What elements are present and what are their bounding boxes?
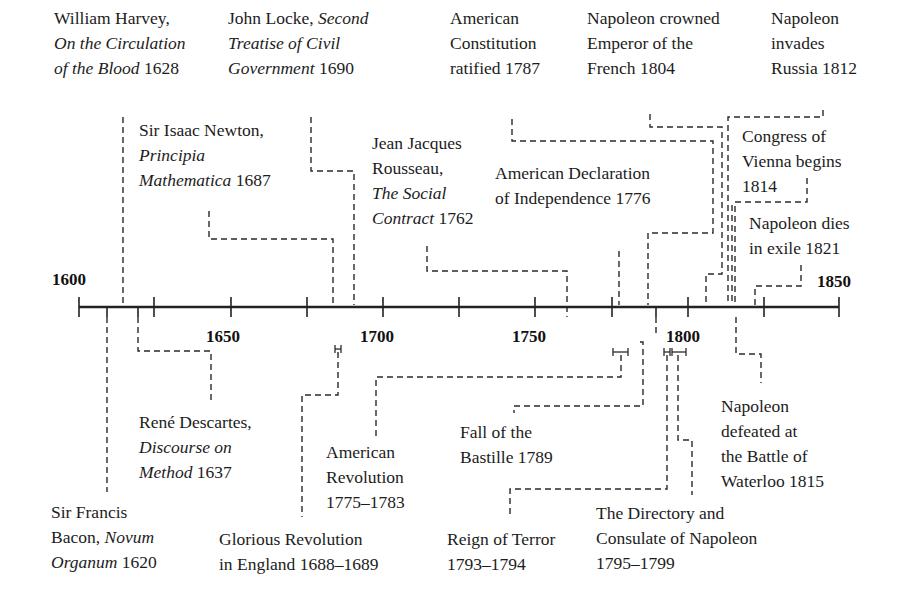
- event-label-rousseau: Jean JacquesRousseau,The SocialContract …: [372, 131, 474, 231]
- connector-descartes: [138, 317, 211, 404]
- work-title-text: On the Circulation: [54, 33, 186, 53]
- work-title-text: Treatise of Civil: [228, 33, 340, 53]
- event-text: Napoleon crowned: [587, 8, 720, 28]
- event-text: Russia 1812: [771, 58, 857, 78]
- event-text: Constitution: [450, 33, 537, 53]
- event-label-terror: Reign of Terror1793–1794: [447, 527, 555, 577]
- work-title-text: Second: [318, 8, 369, 28]
- event-label-locke: John Locke, SecondTreatise of CivilGover…: [228, 6, 368, 81]
- axis-tick-label-1650: 1650: [206, 327, 240, 347]
- event-text: 1620: [117, 552, 156, 572]
- event-text: Revolution: [326, 467, 404, 487]
- event-label-constitution: AmericanConstitutionratified 1787: [450, 6, 540, 81]
- work-title-text: Contract: [372, 208, 434, 228]
- connector-constitution: [512, 119, 713, 305]
- event-text: invades: [771, 33, 824, 53]
- event-label-congress: Congress ofVienna begins1814: [742, 124, 842, 199]
- event-text: Bastille 1789: [460, 447, 553, 467]
- event-text: John Locke,: [228, 8, 318, 28]
- event-text: 1795–1799: [596, 553, 675, 573]
- work-title-text: Method: [139, 462, 192, 482]
- bracket-terror: [664, 348, 670, 356]
- event-text: The Directory and: [596, 503, 724, 523]
- axis-tick-label-1800: 1800: [666, 327, 700, 347]
- connector-napdies: [755, 265, 801, 305]
- event-label-bastille: Fall of theBastille 1789: [460, 420, 553, 470]
- event-text: 1793–1794: [447, 554, 526, 574]
- event-text: 1637: [192, 462, 231, 482]
- bracket-amrev: [613, 348, 628, 356]
- connector-locke: [311, 117, 354, 305]
- event-text: Sir Francis: [51, 502, 127, 522]
- event-text: ratified 1787: [450, 58, 540, 78]
- bracket-directory: [672, 348, 686, 356]
- event-text: Sir Isaac Newton,: [139, 120, 264, 140]
- event-label-napdies: Napoleon diesin exile 1821: [749, 211, 850, 261]
- work-title-text: of the Blood: [54, 58, 140, 78]
- event-text: Fall of the: [460, 422, 532, 442]
- event-text: American: [450, 8, 519, 28]
- bracket-glorious: [335, 345, 341, 353]
- event-label-russia: NapoleoninvadesRussia 1812: [771, 6, 857, 81]
- event-label-waterloo: Napoleondefeated atthe Battle ofWaterloo…: [721, 394, 824, 494]
- timeline-axis: [79, 297, 839, 317]
- event-text: Reign of Terror: [447, 529, 555, 549]
- event-text: 1628: [140, 58, 179, 78]
- connector-newton: [209, 211, 333, 305]
- event-text: Glorious Revolution: [219, 529, 362, 549]
- event-text: Napoleon: [771, 8, 839, 28]
- event-text: in exile 1821: [749, 238, 840, 258]
- work-title-text: Organum: [51, 552, 117, 572]
- event-text: 1687: [231, 170, 270, 190]
- axis-label-end: 1850: [817, 272, 851, 292]
- event-text: French 1804: [587, 58, 675, 78]
- event-text: William Harvey,: [54, 8, 170, 28]
- event-text: Consulate of Napoleon: [596, 528, 757, 548]
- axis-tick-label-1700: 1700: [360, 327, 394, 347]
- work-title-text: The Social: [372, 183, 446, 203]
- event-text: Congress of: [742, 126, 826, 146]
- work-title-text: Novum: [104, 527, 154, 547]
- work-title-text: Principia: [139, 145, 205, 165]
- event-text: Napoleon dies: [749, 213, 850, 233]
- event-label-newton: Sir Isaac Newton,PrincipiaMathematica 16…: [139, 118, 271, 193]
- event-label-descartes: René Descartes,Discourse onMethod 1637: [139, 410, 252, 485]
- event-text: of Independence 1776: [495, 188, 651, 208]
- event-text: defeated at: [721, 421, 797, 441]
- event-text: the Battle of: [721, 446, 808, 466]
- event-text: 1775–1783: [326, 492, 405, 512]
- event-label-directory: The Directory andConsulate of Napoleon17…: [596, 501, 757, 576]
- event-label-crowned: Napoleon crownedEmperor of theFrench 180…: [587, 6, 720, 81]
- connector-terror: [510, 317, 667, 517]
- timeline-diagram: 1600 1850 1650 1700 1750 1800 William Ha…: [0, 0, 917, 607]
- event-text: Bacon,: [51, 527, 104, 547]
- event-label-harvey: William Harvey,On the Circulationof the …: [54, 6, 186, 81]
- connector-waterloo: [736, 317, 761, 383]
- event-text: in England 1688–1689: [219, 554, 378, 574]
- event-text: 1690: [315, 58, 354, 78]
- work-title-text: Discourse on: [139, 437, 232, 457]
- event-label-bacon: Sir FrancisBacon, NovumOrganum 1620: [51, 500, 157, 575]
- work-title-text: Government: [228, 58, 315, 78]
- work-title-text: Mathematica: [139, 170, 231, 190]
- connector-directory: [678, 355, 692, 495]
- event-text: Napoleon: [721, 396, 789, 416]
- axis-label-start: 1600: [52, 270, 86, 290]
- event-text: 1762: [434, 208, 473, 228]
- axis-tick-label-1750: 1750: [512, 327, 546, 347]
- event-text: Vienna begins: [742, 151, 842, 171]
- event-label-declaration: American Declarationof Independence 1776: [495, 161, 651, 211]
- event-text: American: [326, 442, 395, 462]
- event-text: Jean Jacques: [372, 133, 462, 153]
- connector-crowned: [650, 114, 722, 305]
- event-text: René Descartes,: [139, 412, 252, 432]
- event-text: Emperor of the: [587, 33, 693, 53]
- event-text: Waterloo 1815: [721, 471, 824, 491]
- event-label-glorious: Glorious Revolutionin England 1688–1689: [219, 527, 378, 577]
- event-text: American Declaration: [495, 163, 650, 183]
- event-text: 1814: [742, 176, 777, 196]
- event-text: Rousseau,: [372, 158, 443, 178]
- event-label-amrev: AmericanRevolution1775–1783: [326, 440, 405, 515]
